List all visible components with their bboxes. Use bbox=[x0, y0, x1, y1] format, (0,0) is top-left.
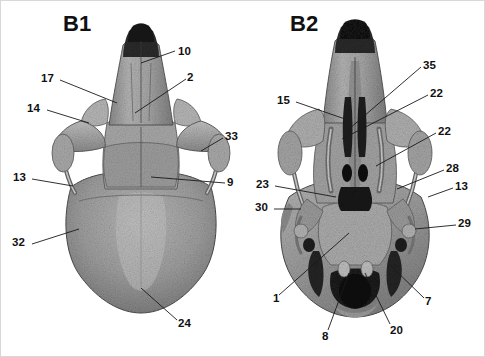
figure-container: B1 B2 10 17 2 14 33 13 9 32 24 35 15 22 … bbox=[0, 0, 485, 357]
label-b2-30: 30 bbox=[255, 202, 268, 214]
label-b2-29: 29 bbox=[458, 218, 471, 230]
label-b2-15: 15 bbox=[277, 95, 290, 107]
label-b1-9: 9 bbox=[227, 177, 233, 189]
label-b1-33: 33 bbox=[225, 131, 238, 143]
leader-b1-17 bbox=[60, 80, 117, 103]
leader-b2-7 bbox=[391, 266, 424, 298]
leader-b1-24 bbox=[141, 288, 177, 320]
leader-b2-1 bbox=[279, 233, 349, 295]
leader-b2-20 bbox=[365, 273, 390, 324]
leader-b1-14 bbox=[47, 110, 89, 123]
label-b1-10: 10 bbox=[178, 46, 191, 58]
leader-b1-9 bbox=[151, 177, 225, 183]
leader-b1-13 bbox=[32, 179, 73, 186]
label-b2-28: 28 bbox=[446, 163, 459, 175]
label-b2-7: 7 bbox=[425, 296, 431, 308]
label-b2-1: 1 bbox=[273, 293, 279, 305]
label-b1-2: 2 bbox=[187, 72, 193, 84]
leader-b2-22a bbox=[342, 95, 428, 139]
leader-b2-8 bbox=[328, 273, 349, 330]
label-b2-8: 8 bbox=[322, 331, 328, 343]
leader-b1-10 bbox=[141, 51, 175, 63]
b2-skull-ventral bbox=[278, 19, 432, 317]
leader-b1-2 bbox=[135, 79, 186, 113]
panel-title-b2: B2 bbox=[290, 13, 318, 35]
leader-b2-35 bbox=[349, 67, 421, 129]
leader-b2-28 bbox=[397, 170, 444, 189]
label-b1-17: 17 bbox=[41, 73, 54, 85]
label-b2-22-upper: 22 bbox=[430, 88, 443, 100]
label-b2-23: 23 bbox=[256, 179, 269, 191]
label-b2-20: 20 bbox=[390, 325, 403, 337]
leader-b2-23 bbox=[275, 186, 336, 197]
panel-title-b1: B1 bbox=[63, 13, 91, 35]
label-b2-13: 13 bbox=[455, 181, 468, 193]
label-b1-24: 24 bbox=[178, 318, 191, 330]
leader-b1-33 bbox=[201, 138, 223, 151]
label-b2-22-lower: 22 bbox=[438, 126, 451, 138]
label-b1-14: 14 bbox=[27, 103, 40, 115]
leader-b2-15 bbox=[296, 102, 345, 119]
leader-lines bbox=[1, 1, 485, 357]
leader-b2-22b bbox=[376, 133, 436, 166]
label-b2-35: 35 bbox=[423, 60, 436, 72]
skull-illustrations bbox=[1, 1, 485, 357]
label-b1-13: 13 bbox=[13, 172, 26, 184]
leader-b2-29 bbox=[415, 225, 456, 229]
leader-b1-32 bbox=[32, 229, 79, 244]
b1-skull-dorsal bbox=[52, 23, 230, 313]
leader-b2-13 bbox=[428, 188, 453, 197]
label-b1-32: 32 bbox=[12, 237, 25, 249]
